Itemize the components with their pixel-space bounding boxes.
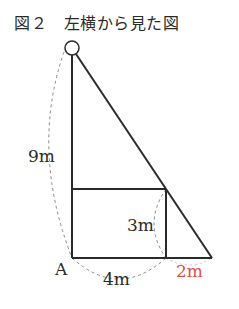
label-3m: 3m — [127, 215, 154, 235]
label-4m: 4m — [103, 269, 130, 289]
label-point-a: A — [54, 259, 68, 279]
dashed-arc-3m — [154, 189, 166, 258]
light-source-circle — [65, 41, 79, 55]
label-9m: 9m — [28, 146, 55, 166]
label-2m: 2m — [176, 261, 203, 281]
diagram-canvas: 9m 3m A 4m 2m — [0, 0, 239, 309]
